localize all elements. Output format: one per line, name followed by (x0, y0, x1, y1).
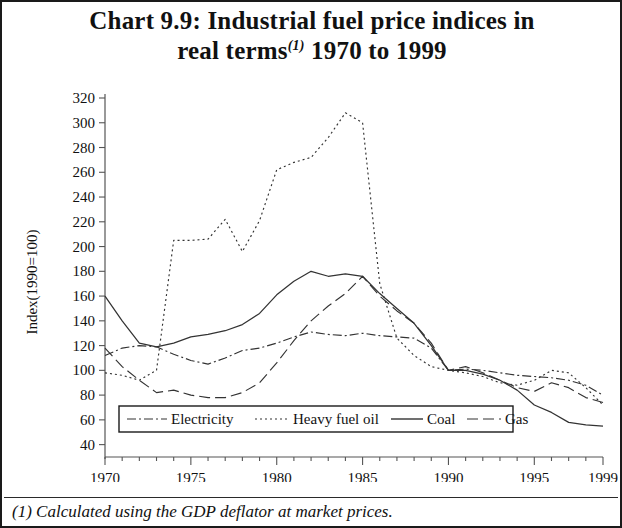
y-tick-label-220: 220 (73, 214, 96, 230)
page-title: Chart 9.9: Industrial fuel price indices… (12, 6, 612, 65)
title-line-2-pre: real terms (177, 37, 288, 64)
footnote-divider (4, 497, 618, 498)
line-chart: 4060801001201401601802002202402602803003… (2, 82, 622, 482)
y-tick-label-40: 40 (80, 437, 95, 453)
legend-label-heavy-fuel-oil: Heavy fuel oil (293, 411, 379, 427)
plot-area: Index(1990=100) 406080100120140160180200… (2, 82, 622, 482)
series-line-coal (105, 271, 603, 426)
x-tick-label-1980: 1980 (262, 470, 292, 482)
legend-label-electricity: Electricity (171, 411, 234, 427)
y-axis-label: Index(1990=100) (24, 229, 41, 334)
y-tick-label-280: 280 (73, 140, 96, 156)
legend-label-coal: Coal (427, 411, 455, 427)
series-line-gas (105, 276, 603, 402)
title-line-1: Chart 9.9: Industrial fuel price indices… (89, 7, 534, 34)
y-tick-label-140: 140 (73, 313, 96, 329)
x-tick-label-1999: 1999 (588, 470, 618, 482)
x-tick-label-1985: 1985 (348, 470, 378, 482)
x-tick-label-1995: 1995 (519, 470, 549, 482)
y-tick-label-320: 320 (73, 90, 96, 106)
y-tick-label-120: 120 (73, 338, 96, 354)
y-tick-label-200: 200 (73, 239, 96, 255)
x-tick-label-1970: 1970 (90, 470, 120, 482)
chart-page: Chart 9.9: Industrial fuel price indices… (0, 0, 622, 528)
x-tick-label-1990: 1990 (433, 470, 463, 482)
y-tick-label-180: 180 (73, 263, 96, 279)
y-tick-label-300: 300 (73, 115, 96, 131)
title-line-2-post: 1970 to 1999 (305, 37, 447, 64)
y-tick-label-260: 260 (73, 164, 96, 180)
y-tick-label-60: 60 (80, 412, 95, 428)
y-tick-label-160: 160 (73, 288, 96, 304)
series-line-heavy-fuel-oil (105, 113, 603, 405)
footnote: (1) Calculated using the GDP deflator at… (12, 502, 612, 522)
y-tick-label-240: 240 (73, 189, 96, 205)
x-tick-label-1975: 1975 (176, 470, 206, 482)
y-tick-label-100: 100 (73, 362, 96, 378)
title-superscript: (1) (288, 37, 305, 52)
y-tick-label-80: 80 (80, 387, 95, 403)
legend-label-gas: Gas (505, 411, 528, 427)
